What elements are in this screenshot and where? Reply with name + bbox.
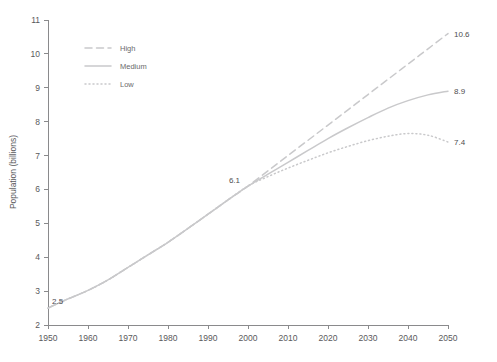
series-line-high <box>48 34 448 309</box>
y-tick-label: 6 <box>35 184 40 194</box>
value-annotations: 2.56.110.68.97.4 <box>52 30 470 307</box>
legend-label-high: High <box>120 44 135 53</box>
series-line-medium <box>48 91 448 308</box>
divergence-value: 6.1 <box>229 176 241 185</box>
x-tick-label: 1990 <box>199 333 218 343</box>
y-tick-label: 8 <box>35 117 40 127</box>
y-tick-label: 11 <box>31 15 40 25</box>
y-tick-label: 10 <box>31 49 41 59</box>
medium-end-value: 8.9 <box>454 87 466 96</box>
x-axis: 1950196019701980199020002010202020302040… <box>39 325 458 343</box>
chart-svg: 234567891011 195019601970198019902000201… <box>0 0 497 362</box>
x-tick-label: 1970 <box>119 333 138 343</box>
y-tick-label: 2 <box>35 320 40 330</box>
low-end-value: 7.4 <box>454 138 466 147</box>
y-tick-label: 5 <box>35 218 40 228</box>
x-tick-label: 2040 <box>399 333 418 343</box>
x-tick-label: 2020 <box>319 333 338 343</box>
x-tick-label: 1980 <box>159 333 178 343</box>
x-tick-label: 1960 <box>79 333 98 343</box>
y-tick-label: 4 <box>35 252 40 262</box>
series-lines <box>48 34 448 309</box>
x-tick-label: 2030 <box>359 333 378 343</box>
y-axis: 234567891011 <box>31 15 48 330</box>
x-tick-label: 2000 <box>239 333 258 343</box>
y-tick-label: 3 <box>35 286 40 296</box>
legend: HighMediumLow <box>85 44 147 89</box>
series-line-low <box>48 133 448 308</box>
x-tick-label: 2050 <box>439 333 458 343</box>
population-projection-chart: 234567891011 195019601970198019902000201… <box>0 0 497 362</box>
legend-label-low: Low <box>120 80 134 89</box>
legend-label-medium: Medium <box>120 62 147 71</box>
y-axis-title: Population (billions) <box>8 135 18 209</box>
start-value: 2.5 <box>52 297 64 306</box>
x-tick-label: 1950 <box>39 333 58 343</box>
y-tick-label: 7 <box>35 151 40 161</box>
y-tick-label: 9 <box>35 83 40 93</box>
x-tick-label: 2010 <box>279 333 298 343</box>
high-end-value: 10.6 <box>454 30 470 39</box>
